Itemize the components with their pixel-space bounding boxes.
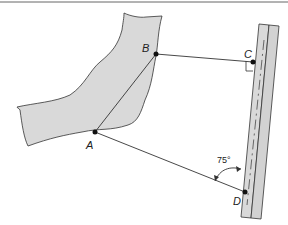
point-C bbox=[251, 60, 256, 65]
angle-arrowhead-top bbox=[236, 166, 241, 172]
label-B: B bbox=[142, 42, 149, 54]
point-D bbox=[243, 190, 248, 195]
diagram-canvas: A B C D 75° bbox=[0, 0, 288, 225]
label-C: C bbox=[244, 48, 252, 60]
label-A: A bbox=[85, 139, 93, 151]
irregular-body bbox=[17, 13, 162, 146]
angle-label: 75° bbox=[217, 155, 231, 165]
point-A bbox=[93, 130, 98, 135]
point-B bbox=[154, 52, 159, 57]
segment-BC bbox=[156, 54, 253, 62]
label-D: D bbox=[233, 195, 241, 207]
